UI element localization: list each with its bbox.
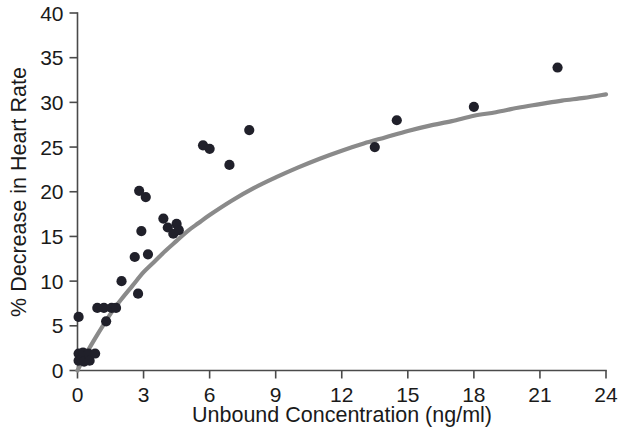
data-point	[205, 144, 215, 154]
data-point	[392, 115, 402, 125]
data-point	[116, 276, 126, 286]
data-point	[552, 62, 562, 72]
data-point	[90, 348, 100, 358]
scatter-plot: 0510152025303540 03691215182124 Unbound …	[0, 0, 630, 429]
x-axis-ticks	[78, 371, 607, 379]
chart-figure: 0510152025303540 03691215182124 Unbound …	[0, 0, 630, 429]
data-point	[133, 289, 143, 299]
data-point	[141, 192, 151, 202]
y-tick-label: 15	[40, 225, 63, 248]
data-point	[244, 125, 254, 135]
y-tick-label: 40	[40, 2, 63, 25]
y-tick-label: 35	[40, 46, 63, 69]
axis-lines	[78, 13, 607, 371]
x-axis-title: Unbound Concentration (ng/ml)	[192, 403, 492, 427]
data-point	[469, 102, 479, 112]
y-axis-title: % Decrease in Heart Rate	[7, 67, 31, 317]
fitted-curve	[78, 94, 607, 370]
data-point	[101, 316, 111, 326]
data-point	[224, 160, 234, 170]
data-point	[174, 225, 184, 235]
x-tick-label: 21	[528, 383, 551, 406]
y-tick-label: 20	[40, 180, 63, 203]
y-tick-label: 5	[52, 314, 64, 337]
data-point	[74, 312, 84, 322]
x-tick-label: 0	[72, 383, 84, 406]
data-point	[370, 142, 380, 152]
y-tick-label: 0	[52, 359, 64, 382]
data-point	[136, 226, 146, 236]
data-point	[130, 252, 140, 262]
data-point	[158, 213, 168, 223]
y-tick-label: 25	[40, 136, 63, 159]
data-point	[111, 303, 121, 313]
y-tick-label: 10	[40, 270, 63, 293]
y-tick-label: 30	[40, 91, 63, 114]
data-points	[74, 62, 563, 366]
y-axis-tick-labels: 0510152025303540	[40, 2, 63, 383]
data-point	[143, 249, 153, 259]
x-tick-label: 24	[594, 383, 618, 406]
x-tick-label: 3	[138, 383, 150, 406]
